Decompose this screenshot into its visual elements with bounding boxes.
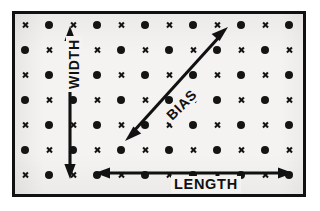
cross-mark [258, 168, 272, 182]
dot-mark [18, 143, 32, 157]
dot-mark [186, 118, 200, 132]
dot-mark [114, 143, 128, 157]
cross-mark [162, 68, 176, 82]
cross-mark [66, 18, 80, 32]
bias-arrow [125, 27, 228, 141]
dot-mark [18, 43, 32, 57]
cross-mark [42, 93, 56, 107]
dot-mark [66, 143, 80, 157]
cross-mark [90, 143, 104, 157]
cross-mark [282, 43, 296, 57]
length-axis-label: LENGTH [171, 176, 241, 193]
dot-mark [90, 118, 104, 132]
cross-mark [138, 93, 152, 107]
cross-mark [258, 68, 272, 82]
cross-mark [210, 18, 224, 32]
dot-mark [114, 43, 128, 57]
dot-mark [66, 93, 80, 107]
cross-mark [234, 143, 248, 157]
cross-mark [90, 93, 104, 107]
dot-mark [210, 93, 224, 107]
dot-mark [282, 68, 296, 82]
width-axis-label: WIDTH [66, 36, 82, 92]
cross-mark [210, 68, 224, 82]
dot-mark [258, 43, 272, 57]
dot-mark [210, 43, 224, 57]
dot-mark [234, 68, 248, 82]
fabric-paper-ground [15, 14, 303, 194]
cross-mark [210, 118, 224, 132]
cross-mark [90, 43, 104, 57]
grain-direction-arrows [15, 14, 303, 194]
dot-mark [18, 93, 32, 107]
cross-mark [114, 18, 128, 32]
dot-mark [138, 168, 152, 182]
dot-mark [162, 143, 176, 157]
cross-mark [42, 43, 56, 57]
cross-mark [138, 43, 152, 57]
dot-mark [42, 68, 56, 82]
cross-mark [18, 68, 32, 82]
dot-mark [282, 18, 296, 32]
dot-mark [162, 43, 176, 57]
dot-mark [282, 168, 296, 182]
dot-mark [186, 18, 200, 32]
cross-mark [282, 143, 296, 157]
dot-mark [138, 18, 152, 32]
cross-mark [282, 93, 296, 107]
dot-mark [42, 168, 56, 182]
dot-mark [210, 143, 224, 157]
cross-mark [258, 18, 272, 32]
cross-mark [114, 68, 128, 82]
dot-mark [90, 68, 104, 82]
cross-mark [18, 118, 32, 132]
cross-mark [114, 168, 128, 182]
dot-mark [258, 93, 272, 107]
cross-mark [186, 143, 200, 157]
dot-mark [258, 143, 272, 157]
dot-mark [138, 118, 152, 132]
cross-mark [258, 118, 272, 132]
dot-mark [138, 68, 152, 82]
dot-mark [234, 118, 248, 132]
cross-mark [114, 118, 128, 132]
cross-mark [66, 118, 80, 132]
cross-mark [138, 143, 152, 157]
cross-mark [234, 43, 248, 57]
cross-mark [66, 168, 80, 182]
cross-mark [234, 93, 248, 107]
dot-mark [42, 18, 56, 32]
dot-mark [114, 93, 128, 107]
fabric-grain-direction-diagram: WIDTH LENGTH BIAS [0, 0, 320, 211]
fabric-swatch-frame: WIDTH LENGTH BIAS [12, 11, 306, 197]
dot-mark [282, 118, 296, 132]
cross-mark [18, 168, 32, 182]
cross-mark [162, 18, 176, 32]
cross-mark [186, 43, 200, 57]
cross-mark [42, 143, 56, 157]
dot-mark [42, 118, 56, 132]
dot-mark [90, 18, 104, 32]
dot-mark [186, 68, 200, 82]
dot-mark [90, 168, 104, 182]
bias-axis-label: BIAS [161, 84, 202, 125]
dot-mark [234, 18, 248, 32]
cross-mark [18, 18, 32, 32]
